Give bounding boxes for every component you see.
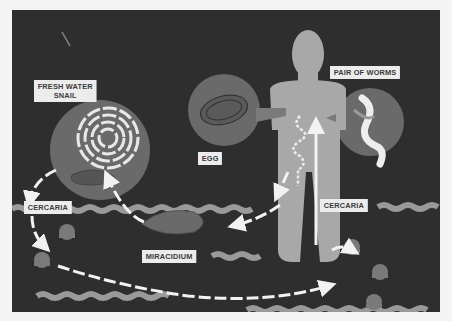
life-cycle-diagram: FRESH WATER SNAIL EGG PAIR OF WORMS CERC… xyxy=(12,10,440,312)
label-fresh-water-snail: FRESH WATER SNAIL xyxy=(34,80,96,102)
human-figure xyxy=(270,30,346,262)
egg-illustration xyxy=(188,74,260,146)
diagram-artwork xyxy=(12,10,440,312)
miracidium-illustration xyxy=(142,211,203,234)
snail-illustration xyxy=(50,100,150,200)
label-egg: EGG xyxy=(198,152,222,165)
worms-illustration xyxy=(336,88,404,164)
label-miracidium: MIRACIDIUM xyxy=(142,250,196,263)
label-pair-of-worms: PAIR OF WORMS xyxy=(330,66,400,79)
label-cercaria-left: CERCARIA xyxy=(24,201,72,214)
label-cercaria-right: CERCARIA xyxy=(320,199,368,212)
